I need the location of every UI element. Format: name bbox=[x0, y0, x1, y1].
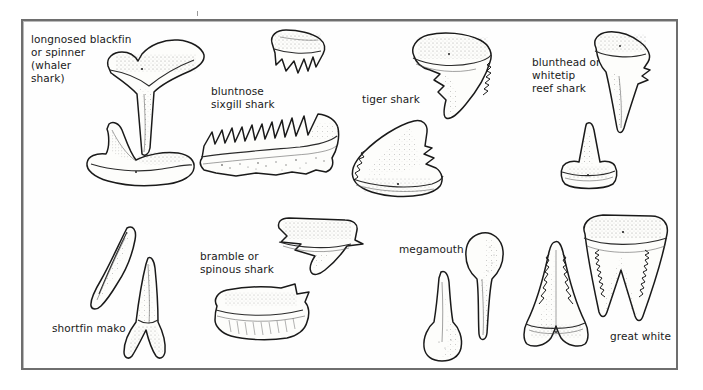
specimen-bramble-spinous-tooth-lower bbox=[209, 282, 319, 344]
specimen-bramble-spinous-tooth-upper bbox=[265, 214, 365, 282]
specimen-bluntnose-sixgill-single-tooth bbox=[266, 27, 328, 89]
specimen-great-white-lower-tooth bbox=[515, 238, 597, 354]
specimen-bluntnose-sixgill-comb-tooth bbox=[196, 110, 342, 182]
specimen-megamouth-tooth-right bbox=[460, 229, 508, 345]
label-great-white: great white bbox=[610, 330, 690, 343]
specimen-longnosed-blackfin-lower-tooth bbox=[82, 120, 198, 200]
shark-teeth-plate: longnosed blackfin or spinner (whaler sh… bbox=[0, 0, 703, 390]
specimen-whitetip-reef-lower-tooth bbox=[553, 120, 623, 192]
specimen-tiger-shark-lower-tooth bbox=[348, 118, 452, 200]
specimen-megamouth-tooth-left bbox=[419, 268, 467, 364]
specimen-shortfin-mako-straight-tooth bbox=[118, 254, 174, 364]
scan-artifact-tick bbox=[197, 11, 198, 16]
